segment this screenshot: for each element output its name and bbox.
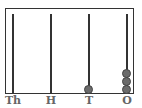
bead-ones-3 xyxy=(122,69,131,78)
label-tens: T xyxy=(85,95,93,107)
label-thousands: Th xyxy=(5,95,21,107)
rod-thousands xyxy=(12,14,14,94)
bead-tens-1 xyxy=(84,85,93,94)
bead-ones-1 xyxy=(122,85,131,94)
label-hundreds: H xyxy=(46,95,56,107)
rod-tens xyxy=(88,14,90,94)
abacus-frame xyxy=(5,8,134,94)
bead-ones-2 xyxy=(122,77,131,86)
rod-hundreds xyxy=(50,14,52,94)
label-ones: O xyxy=(122,95,132,107)
